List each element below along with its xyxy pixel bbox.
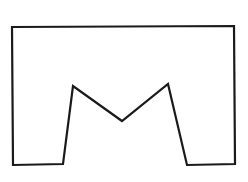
diagram-canvas xyxy=(0,0,248,182)
m-shaped-polygon xyxy=(12,26,235,165)
